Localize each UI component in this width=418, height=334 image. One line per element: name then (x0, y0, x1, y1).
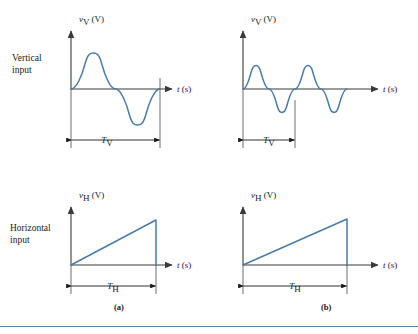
panel-a-vertical-period-label: TV (101, 135, 113, 148)
panel-a-horizontal-y-axis-label: vH (V) (79, 190, 104, 203)
figure-svg: vV (V) t (s) TV vV (V) (0, 0, 418, 334)
figure-root: Vertical input Horizontal input vV (V) (0, 0, 418, 334)
panel-b-vertical: vV (V) t (s) TV (243, 14, 397, 148)
panel-a-horizontal-sawtooth-curve (71, 220, 156, 265)
panel-b-horizontal-y-axis-label: vH (V) (251, 190, 276, 203)
caption-a: (a) (114, 302, 124, 312)
panel-b-vertical-period-label: TV (263, 135, 275, 148)
panel-b-horizontal: vH (V) t (s) TH (243, 190, 397, 294)
panel-b-horizontal-sawtooth-curve (243, 219, 347, 265)
panel-a-horizontal: vH (V) t (s) TH (71, 190, 191, 294)
caption-b: (b) (321, 302, 331, 312)
bottom-divider-rule (0, 326, 418, 327)
panel-b-vertical-y-axis-label: vV (V) (251, 14, 276, 27)
panel-a-horizontal-x-axis-label: t (s) (177, 260, 191, 270)
panel-b-horizontal-period-label: TH (289, 281, 301, 294)
panel-b-vertical-x-axis-label: t (s) (383, 84, 397, 94)
panel-b-horizontal-x-axis-label: t (s) (383, 260, 397, 270)
panel-a-vertical: vV (V) t (s) TV (71, 14, 191, 148)
panel-a-vertical-y-axis-label: vV (V) (79, 14, 104, 27)
panel-a-horizontal-period-label: TH (107, 281, 119, 294)
panel-a-vertical-x-axis-label: t (s) (177, 84, 191, 94)
